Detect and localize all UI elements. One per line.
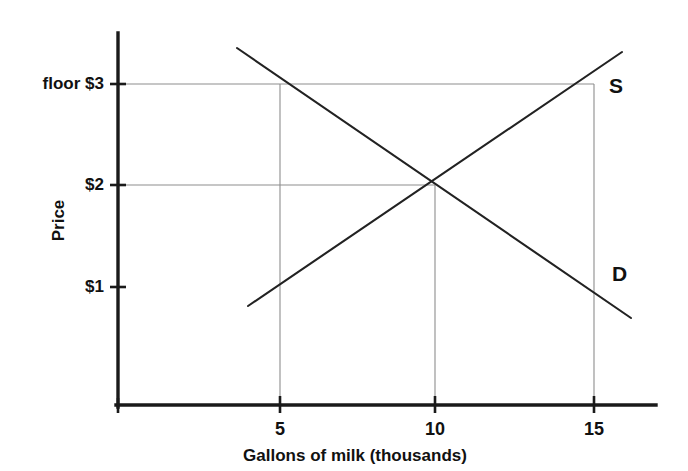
y-axis-title: Price	[50, 191, 67, 251]
chart-canvas	[0, 0, 688, 471]
supply-demand-chart: floor $3 $2 $1 Price 5 10 15 Gallons of …	[0, 0, 688, 471]
x-axis-label-15: 15	[574, 420, 614, 438]
y-axis-label-price-floor: floor $3	[12, 75, 104, 92]
supply-curve-label: S	[609, 75, 623, 96]
y-axis-label-1: $1	[12, 278, 104, 295]
x-axis-label-10: 10	[415, 420, 455, 438]
x-axis-title: Gallons of milk (thousands)	[225, 447, 485, 464]
x-axis-label-5: 5	[260, 420, 300, 438]
demand-curve	[237, 48, 631, 318]
demand-curve-label: D	[612, 263, 627, 284]
